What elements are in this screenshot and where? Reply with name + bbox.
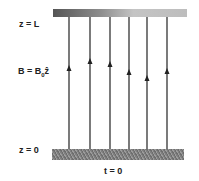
label-field: B = B0ẑ [18,66,49,78]
arrow-up-icon [127,69,132,75]
arrow-up-icon [145,75,150,81]
field-unit-vector: ẑ [45,66,50,76]
arrow-up-icon [88,58,93,64]
arrow-up-icon [67,65,72,71]
label-z-0: z = 0 [19,145,39,155]
arrow-up-icon [165,68,170,74]
label-z-L: z = L [19,19,39,29]
field-prefix: B = B [18,66,41,76]
label-time: t = 0 [104,166,122,176]
arrow-up-icon [108,61,113,67]
